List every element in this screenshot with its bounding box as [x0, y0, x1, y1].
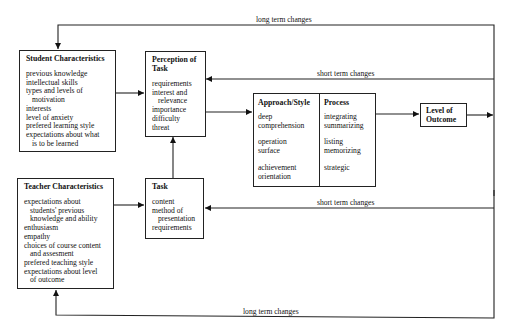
item-group: operationsurface [258, 138, 315, 155]
long-term-changes-label-bottom: long term changes [243, 307, 299, 316]
list-item: threat [152, 124, 199, 133]
list-item: orientation [258, 173, 315, 182]
teacher-characteristics-title: Teacher Characteristics [24, 182, 107, 191]
long-term-bottom-line [56, 190, 494, 318]
short-term-changes-label-top: short term changes [317, 69, 374, 78]
process-title: Process [324, 98, 371, 107]
task-title: Task [152, 182, 197, 191]
approach-style-groups: deepcomprehensionoperationsurfaceachieve… [258, 113, 315, 181]
list-item: summarizing [324, 122, 371, 131]
perception-list: requirementsinterest andrelevanceimporta… [152, 80, 199, 132]
short-term-changes-label-bottom: short term changes [317, 198, 374, 207]
long-term-changes-label-top: long term changes [256, 15, 312, 24]
perception-title-line1: Perception of [152, 55, 199, 64]
item-group: integratingsummarizing [324, 113, 371, 130]
list-item: of outcome [24, 276, 107, 285]
outcome-title-line1: Level of [426, 106, 461, 115]
process-column: Process integratingsummarizinglistingmem… [320, 94, 375, 186]
item-group: listingmemorizing [324, 138, 371, 155]
task-box: Task contentmethod ofpresentationrequire… [145, 178, 204, 239]
approach-style-title: Approach/Style [258, 98, 315, 107]
item-group: deepcomprehension [258, 113, 315, 130]
approach-process-box: Approach/Style deepcomprehensionoperatio… [253, 93, 376, 187]
item-group: strategic [324, 164, 371, 173]
student-characteristics-box: Student Characteristics previous knowled… [19, 50, 116, 152]
teacher-characteristics-list: expectations aboutstudents' previousknow… [24, 198, 107, 285]
list-item: surface [258, 147, 315, 156]
list-item: strategic [324, 164, 371, 173]
outcome-title-line2: Outcome [426, 115, 461, 124]
item-group: achievementorientation [258, 164, 315, 181]
student-characteristics-list: previous knowledgeintellectual skillstyp… [26, 70, 109, 148]
process-groups: integratingsummarizinglistingmemorizings… [324, 113, 371, 173]
task-list: contentmethod ofpresentationrequirements [152, 198, 197, 233]
list-item: memorizing [324, 147, 371, 156]
teacher-characteristics-box: Teacher Characteristics expectations abo… [17, 178, 114, 289]
perception-of-task-box: Perception of Task requirementsinterest … [145, 51, 206, 137]
list-item: is to be learned [26, 140, 109, 149]
level-of-outcome-box: Level of Outcome [420, 103, 467, 127]
approach-style-column: Approach/Style deepcomprehensionoperatio… [254, 94, 320, 186]
list-item: comprehension [258, 122, 315, 131]
student-characteristics-title: Student Characteristics [26, 54, 109, 63]
perception-title-line2: Task [152, 64, 199, 73]
list-item: requirements [152, 224, 197, 233]
